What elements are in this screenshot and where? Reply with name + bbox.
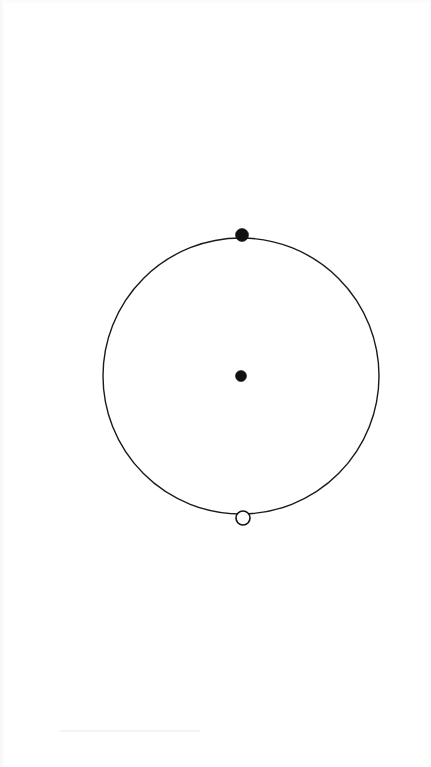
bottom-point-marker [236, 511, 250, 525]
center-point-marker [236, 371, 247, 382]
geometry-diagram [0, 0, 431, 767]
diagram-canvas [0, 0, 431, 767]
top-point-marker [236, 229, 249, 242]
